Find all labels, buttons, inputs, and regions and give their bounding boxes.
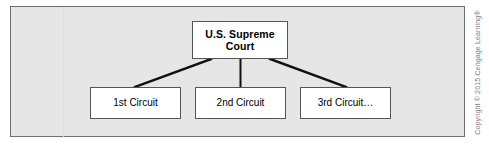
copyright-credit: Copyright © 2015 Cengage Learning®: [466, 0, 489, 145]
node-circuit-3-label: 3rd Circuit…: [318, 97, 374, 109]
connector-line-to-circuit-1: [135, 59, 211, 87]
node-circuit-1: 1st Circuit: [90, 87, 181, 119]
court-hierarchy-figure: U.S. SupremeCourt 1st Circuit 2nd Circui…: [0, 0, 489, 145]
connector-line-to-circuit-3: [270, 59, 346, 87]
node-circuit-1-label: 1st Circuit: [113, 97, 157, 109]
node-circuit-2-label: 2nd Circuit: [217, 97, 265, 109]
copyright-credit-text: Copyright © 2015 Cengage Learning®: [474, 10, 481, 134]
node-circuit-3: 3rd Circuit…: [300, 87, 391, 119]
node-supreme-court-label-line-2: Court: [226, 40, 255, 52]
diagram-panel: U.S. SupremeCourt 1st Circuit 2nd Circui…: [10, 6, 465, 137]
node-supreme-court: U.S. SupremeCourt: [192, 21, 288, 59]
node-circuit-2: 2nd Circuit: [195, 87, 286, 119]
node-supreme-court-label-line-1: U.S. Supreme: [205, 28, 274, 40]
node-supreme-court-label: U.S. SupremeCourt: [205, 28, 274, 53]
